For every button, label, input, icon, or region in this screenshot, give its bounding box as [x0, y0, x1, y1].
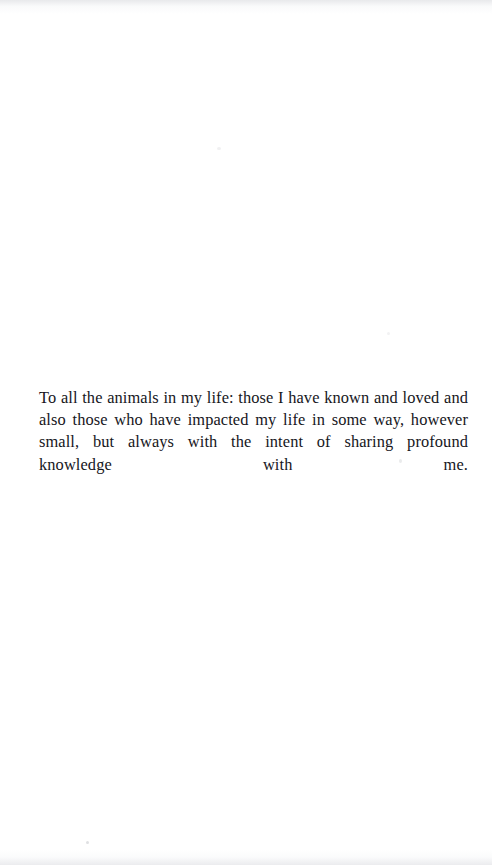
dedication-block: To all the animals in my life: those I h… [39, 387, 468, 498]
scan-speck [217, 147, 221, 150]
book-page: To all the animals in my life: those I h… [0, 0, 492, 865]
scan-speck [86, 841, 89, 844]
scan-speck [387, 332, 390, 335]
scan-edge-bottom [0, 849, 492, 865]
scan-edge-top [0, 0, 492, 14]
dedication-text: To all the animals in my life: those I h… [39, 387, 468, 498]
